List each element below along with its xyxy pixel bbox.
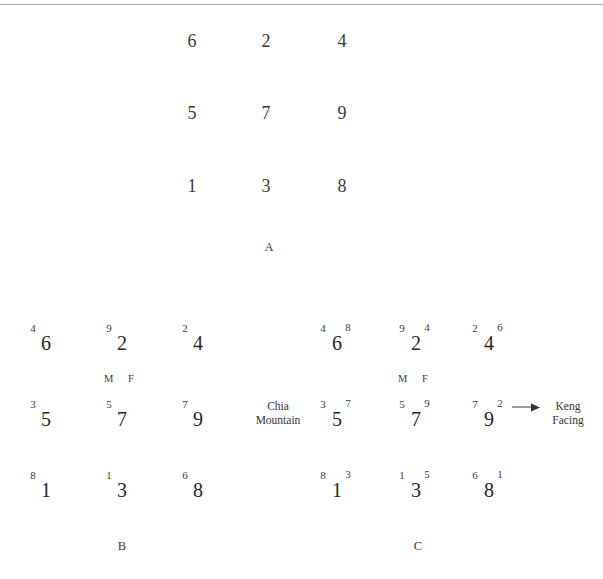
star-number: 2	[411, 333, 421, 353]
star-number: 7	[411, 409, 421, 429]
mountain-star-number: 4	[320, 323, 326, 334]
keng-facing-line-1: Keng	[552, 399, 583, 413]
facing-star-number: 3	[345, 469, 351, 480]
facing-star-number: 1	[497, 469, 503, 480]
keng-facing-line-2: Facing	[552, 413, 583, 427]
star-number: 5	[332, 409, 342, 429]
facing-direction-arrow-icon	[512, 403, 540, 412]
mountain-star-number: 2	[472, 323, 478, 334]
star-number: 1	[332, 480, 342, 500]
arrow-head	[531, 403, 540, 411]
facing-star-number: 8	[345, 322, 351, 333]
chart-c-caption: C	[414, 539, 422, 554]
facing-star-number: 6	[497, 322, 503, 333]
mountain-star-number: 8	[320, 470, 326, 481]
facing-star-number: 9	[424, 398, 430, 409]
star-number: 3	[411, 480, 421, 500]
star-number: 4	[484, 333, 494, 353]
mountain-star-number: 7	[472, 399, 478, 410]
mountain-star-number: 1	[399, 470, 405, 481]
mountain-star-number: 5	[399, 399, 405, 410]
chart-c: 4 8 6 9 4 2 2 6 4 M F 3 7 5 5 9 7 7 2	[0, 0, 603, 579]
mountain-star-number: 3	[320, 399, 326, 410]
mountain-star-number: 6	[472, 470, 478, 481]
star-number: 9	[484, 409, 494, 429]
star-number: 6	[332, 333, 342, 353]
facing-star-number: 4	[424, 322, 430, 333]
chart-c-mf-label: M F	[398, 374, 434, 385]
keng-facing-label: Keng Facing	[552, 399, 583, 428]
facing-star-number: 2	[497, 398, 503, 409]
arrow-shaft	[512, 407, 532, 408]
mountain-star-number: 9	[399, 323, 405, 334]
star-number: 8	[484, 480, 494, 500]
facing-star-number: 5	[424, 469, 430, 480]
facing-star-number: 7	[345, 398, 351, 409]
